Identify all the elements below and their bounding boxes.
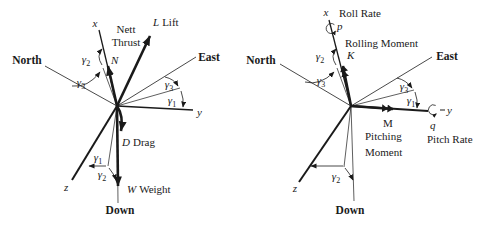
- nett-thrust-label-line2: Thrust: [112, 36, 141, 48]
- roll-rate-symbol: p: [336, 20, 343, 32]
- pitching-moment-label-line2: Moment: [365, 146, 402, 158]
- y-axis-label: y: [446, 104, 452, 116]
- pitch-rate-label: Pitch Rate: [427, 133, 473, 145]
- east-label: East: [436, 50, 458, 62]
- background: [0, 0, 485, 225]
- z-axis-label: z: [63, 181, 69, 193]
- weight-label: WWeight: [127, 183, 171, 195]
- rolling-moment-label: Rolling Moment: [345, 37, 418, 49]
- east-label: East: [198, 51, 220, 63]
- figure-canvas: x North East Down Nett Thrust N LLift y …: [0, 0, 485, 225]
- roll-rate-label: Roll Rate: [339, 7, 381, 19]
- drag-label: DDrag: [121, 136, 155, 148]
- weight-vector: [117, 106, 118, 186]
- pitch-rate-symbol: q: [430, 119, 436, 131]
- rolling-moment-symbol: K: [346, 49, 355, 61]
- y-axis-label: y: [196, 106, 202, 118]
- down-label: Down: [336, 204, 365, 216]
- x-axis-label: x: [323, 6, 329, 18]
- axes-diagram-svg: x North East Down Nett Thrust N LLift y …: [0, 0, 485, 225]
- lift-label: LLift: [152, 16, 179, 28]
- x-axis-label: x: [92, 17, 98, 29]
- pitching-moment-symbol: M: [383, 117, 393, 129]
- down-label: Down: [106, 204, 135, 216]
- pitching-moment-label-line1: Pitching: [365, 130, 402, 142]
- z-axis-label: z: [292, 182, 298, 194]
- north-label: North: [12, 54, 42, 66]
- thrust-symbol-label: N: [110, 54, 119, 66]
- north-label: North: [246, 54, 276, 66]
- nett-thrust-label-line1: Nett: [117, 23, 136, 35]
